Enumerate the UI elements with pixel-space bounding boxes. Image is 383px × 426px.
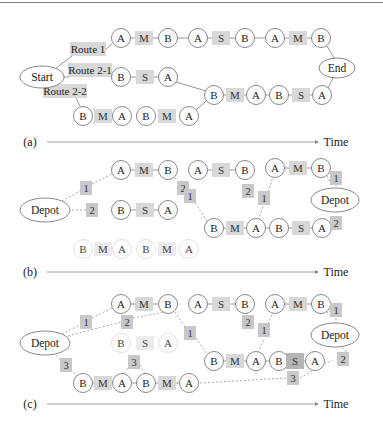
task-node-label: B [317, 162, 324, 174]
vehicle-number: 3 [290, 373, 295, 384]
task-node-label: B [164, 164, 171, 176]
operation-label: M [98, 377, 108, 389]
panel-label: (c) [23, 397, 36, 411]
vehicle-number: 1 [261, 193, 266, 204]
vehicle-number: 1 [187, 328, 192, 339]
operation-label: M [139, 164, 149, 176]
vehicle-number: 2 [124, 317, 129, 328]
operation-label: M [162, 110, 172, 122]
depot-right-label: Depot [321, 194, 350, 207]
vehicle-number: 1 [333, 305, 338, 316]
vehicle-number: 1 [261, 325, 266, 336]
task-node-label: B [210, 89, 217, 101]
vehicle-number: 2 [89, 205, 94, 216]
task-node-label: B [210, 355, 217, 367]
operation-label: M [139, 298, 149, 310]
operation-label: M [230, 89, 240, 101]
operation-label: M [162, 243, 172, 255]
task-node-label: A [118, 377, 126, 389]
vehicle-number: 2 [340, 354, 345, 365]
task-node-label: B [164, 32, 171, 44]
task-node-label: A [252, 222, 260, 234]
task-node-label: A [271, 162, 279, 174]
operation-label: M [139, 32, 149, 44]
vehicle-number: 1 [83, 317, 88, 328]
route-diagram: (a)TimeRoute 1Route 2-1Route 2-2StartEnd… [0, 0, 383, 426]
depot-left-label: Depot [31, 204, 60, 217]
operation-label: M [293, 162, 303, 174]
vehicle-number: 1 [187, 191, 192, 202]
vehicle-number: 2 [333, 218, 338, 229]
task-node-label: B [142, 243, 149, 255]
task-node-label: B [275, 355, 282, 367]
panel-label: (b) [23, 265, 37, 279]
start-label: Start [31, 71, 54, 83]
operation-label: S [218, 32, 224, 44]
task-node-label: A [164, 204, 172, 216]
task-node-label: A [271, 32, 279, 44]
task-node-label: A [318, 222, 326, 234]
task-node-label: B [142, 377, 149, 389]
task-node-label: B [317, 32, 324, 44]
task-node-label: A [252, 89, 260, 101]
vehicle-number: 2 [245, 317, 250, 328]
vehicle-number: 3 [131, 357, 136, 368]
task-node-label: A [185, 243, 193, 255]
task-node-label: A [118, 110, 126, 122]
task-node-label: A [164, 337, 172, 349]
operation-label: M [162, 377, 172, 389]
task-node-label: A [318, 89, 326, 101]
panel-a: (a)TimeRoute 1Route 2-1Route 2-2StartEnd… [20, 29, 355, 150]
task-node-label: A [117, 298, 125, 310]
task-node-label: A [311, 355, 319, 367]
task-node-label: A [117, 164, 125, 176]
task-node-label: B [117, 204, 124, 216]
panel-label: (a) [23, 135, 36, 149]
task-node-label: B [317, 298, 324, 310]
end-label: End [328, 62, 347, 74]
time-axis-label: Time [324, 135, 349, 149]
task-node-label: B [117, 337, 124, 349]
operation-label: M [230, 355, 240, 367]
operation-label: S [142, 337, 148, 349]
task-node-label: B [210, 222, 217, 234]
task-node-label: B [241, 298, 248, 310]
time-axis-label: Time [324, 397, 349, 411]
operation-label: S [218, 164, 224, 176]
operation-label: M [98, 243, 108, 255]
vehicle-number: 1 [333, 173, 338, 184]
task-node-label: B [79, 243, 86, 255]
panel-b: (b)TimeDepotDepotAMBASBAMBBSABMABMABMABS… [20, 159, 359, 280]
operation-label: M [293, 32, 303, 44]
task-node-label: B [79, 110, 86, 122]
operation-label: S [298, 222, 304, 234]
task-node-label: A [194, 164, 202, 176]
task-node-label: A [194, 298, 202, 310]
vehicle-number: 2 [245, 186, 250, 197]
task-node-label: A [118, 243, 126, 255]
task-node-label: B [142, 110, 149, 122]
operation-label: S [218, 298, 224, 310]
task-node-label: B [275, 89, 282, 101]
task-node-label: A [185, 377, 193, 389]
route-label: Route 1 [71, 43, 106, 55]
task-node-label: B [79, 377, 86, 389]
task-node-label: A [117, 32, 125, 44]
route-label: Route 2-1 [68, 64, 112, 76]
time-axis-label: Time [324, 265, 349, 279]
operation-label: S [292, 355, 298, 367]
task-node-label: A [252, 355, 260, 367]
task-node-label: A [271, 298, 279, 310]
operation-label: M [98, 110, 108, 122]
task-node-label: A [194, 32, 202, 44]
task-node-label: B [275, 222, 282, 234]
vehicle-number: 1 [83, 183, 88, 194]
task-node-label: B [117, 71, 124, 83]
task-node-label: B [241, 164, 248, 176]
panel-c-connectors [56, 308, 346, 383]
panel-c: (c)TimeDepotDepotAMBASBAMBBSABMABMABMABS… [20, 295, 359, 412]
task-node-label: A [185, 110, 193, 122]
operation-label: M [293, 298, 303, 310]
depot-right-label: Depot [321, 329, 350, 342]
task-node-label: A [164, 71, 172, 83]
